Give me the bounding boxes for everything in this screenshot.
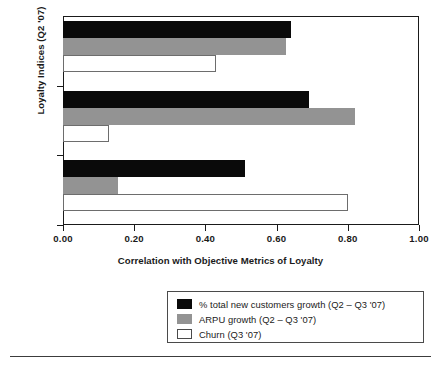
y-axis-title: Loyalty Indices (Q2 '07) — [35, 0, 46, 161]
x-axis-tick-5 — [419, 225, 420, 231]
x-axis-tick-3 — [277, 225, 278, 231]
x-axis-tick-1 — [134, 225, 135, 231]
bar-rli-series-2 — [63, 194, 348, 211]
y-axis-tick-1 — [57, 86, 63, 87]
legend-row-2: Churn (Q3 '07) — [177, 327, 423, 341]
legend-label-0: % total new customers growth (Q2 – Q3 '0… — [199, 299, 385, 310]
bar-pli-series-1 — [63, 108, 355, 125]
x-axis-tick-label-1: 0.20 — [104, 233, 164, 244]
bar-chart-figure: Loyalty Indices (Q2 '07) ALIPLIRLI 0.000… — [0, 0, 441, 368]
bar-ali-series-2 — [63, 55, 216, 72]
bar-ali-series-0 — [63, 21, 291, 38]
bar-rli-series-1 — [63, 177, 118, 194]
x-axis-tick-label-4: 0.80 — [318, 233, 378, 244]
x-axis-tick-label-5: 1.00 — [389, 233, 441, 244]
legend-row-0: % total new customers growth (Q2 – Q3 '0… — [177, 297, 423, 311]
x-axis-tick-label-2: 0.40 — [175, 233, 235, 244]
legend-label-1: ARPU growth (Q2 – Q3 '07) — [199, 314, 316, 325]
chart-legend: % total new customers growth (Q2 – Q3 '0… — [167, 291, 424, 343]
bar-pli-series-0 — [63, 91, 309, 108]
black-swatch — [177, 299, 192, 309]
y-axis-tick-2 — [57, 155, 63, 156]
legend-label-2: Churn (Q3 '07) — [199, 329, 261, 340]
bottom-rule-divider — [10, 356, 431, 357]
x-axis-tick-4 — [348, 225, 349, 231]
x-axis-tick-2 — [205, 225, 206, 231]
bar-pli-series-2 — [63, 125, 109, 142]
x-axis-tick-label-0: 0.00 — [33, 233, 93, 244]
bar-ali-series-1 — [63, 38, 286, 55]
x-axis-tick-label-3: 0.60 — [247, 233, 307, 244]
x-axis-tick-0 — [63, 225, 64, 231]
white-swatch — [177, 329, 192, 339]
gray-swatch — [177, 314, 192, 324]
bar-rli-series-0 — [63, 160, 245, 177]
x-axis-title: Correlation with Objective Metrics of Lo… — [0, 255, 441, 266]
legend-row-1: ARPU growth (Q2 – Q3 '07) — [177, 312, 423, 326]
